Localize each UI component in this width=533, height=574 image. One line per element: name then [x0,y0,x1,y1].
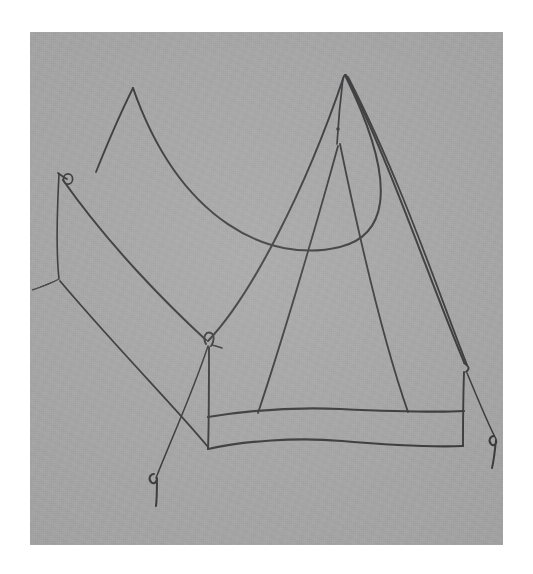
paper-sheet [30,32,503,545]
guy-line-left [156,346,208,478]
ground-line-upper [208,408,464,417]
front-pole-loop-tick [212,345,222,348]
left-pole-foot [32,279,59,290]
left-panel-hem [60,281,208,447]
guy-line-right [467,373,496,439]
ink-blot [336,127,340,131]
front-pole [208,347,209,449]
left-tent-peg [150,474,157,506]
rear-peak-tail [96,88,133,172]
door-left-flap-edge [258,146,338,413]
left-panel-upper-edge [63,180,206,340]
front-ridge-line [208,76,344,341]
right-corner-shoulder [464,363,469,372]
tent-drawing [30,32,503,545]
left-corner-pole [57,174,59,279]
right-pole [463,372,464,446]
sketch-canvas: Tent sketch [0,0,533,574]
right-tent-peg [490,436,497,468]
ground-line-lower [208,439,463,449]
